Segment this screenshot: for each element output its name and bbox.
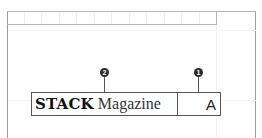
callout-1-leader-line [198, 77, 199, 92]
ruler-cell [112, 12, 130, 24]
ruler-cell [25, 12, 43, 24]
masthead-right-cell: A [178, 93, 220, 115]
ruler-cell [60, 12, 78, 24]
callout-1-badge: 1 [194, 68, 203, 77]
ruler-cell [95, 12, 113, 24]
ruler-cell [200, 12, 217, 24]
right-cell-text: A [206, 96, 216, 113]
ruler-cell [42, 12, 60, 24]
ruler-cell [147, 12, 165, 24]
ruler-cell [165, 12, 183, 24]
ruler-cell [7, 12, 25, 24]
ruler-cell [77, 12, 95, 24]
callout-2-leader-line [104, 77, 105, 92]
masthead-left-cell: STACK Magazine [32, 93, 178, 115]
ruler-strip [7, 11, 217, 25]
guide-line-horizontal [8, 30, 256, 31]
brand-text: STACK [35, 95, 94, 113]
ruler-cell [130, 12, 148, 24]
callout-2-badge: 2 [100, 68, 109, 77]
masthead-field-box: STACK Magazine A [31, 92, 221, 116]
guide-line-vertical [216, 25, 217, 138]
ruler-cell [182, 12, 200, 24]
title-text: Magazine [98, 95, 161, 113]
